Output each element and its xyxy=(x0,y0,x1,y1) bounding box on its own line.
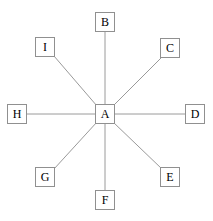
node-c[interactable]: C xyxy=(160,38,180,58)
node-d[interactable]: D xyxy=(185,104,205,124)
node-i[interactable]: I xyxy=(35,37,55,57)
node-label-c: C xyxy=(166,42,174,54)
node-a[interactable]: A xyxy=(95,104,115,124)
node-label-h: H xyxy=(13,108,22,120)
node-g[interactable]: G xyxy=(35,167,55,187)
node-label-f: F xyxy=(102,194,109,206)
node-h[interactable]: H xyxy=(7,104,27,124)
node-label-a: A xyxy=(101,108,110,120)
node-label-e: E xyxy=(166,171,173,183)
node-layer: ABCDEFGHI xyxy=(0,0,213,221)
node-e[interactable]: E xyxy=(160,167,180,187)
node-label-i: I xyxy=(43,41,47,53)
node-label-g: G xyxy=(41,171,50,183)
node-b[interactable]: B xyxy=(95,12,115,32)
node-label-b: B xyxy=(101,16,109,28)
node-label-d: D xyxy=(191,108,200,120)
node-f[interactable]: F xyxy=(95,190,115,210)
star-network-diagram: ABCDEFGHI xyxy=(0,0,213,221)
